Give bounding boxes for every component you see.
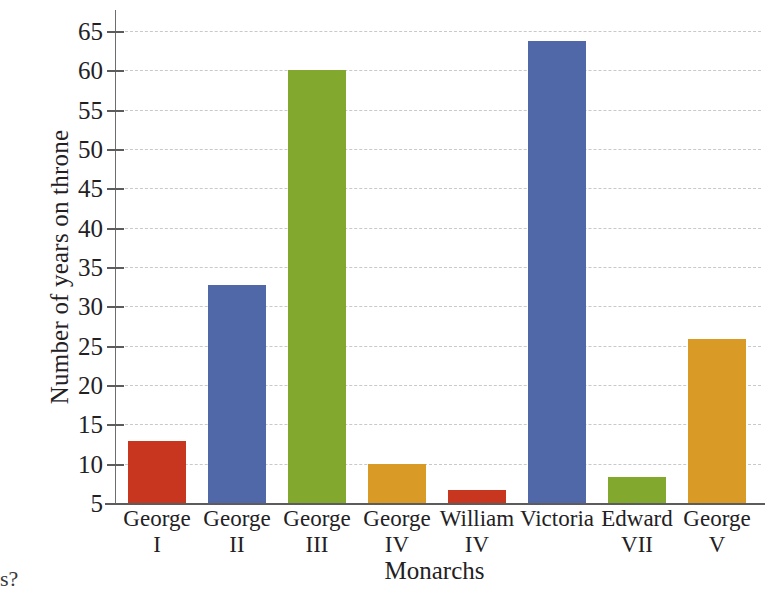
y-axis-tick-label: 50 <box>78 137 103 162</box>
y-axis-tick-label: 15 <box>78 412 103 437</box>
x-axis-tick-label: GeorgeV <box>669 506 765 558</box>
gridline <box>115 70 761 71</box>
bar <box>208 285 266 503</box>
y-axis-tick <box>107 346 124 348</box>
y-axis-tick <box>107 188 124 190</box>
y-axis-tick-label: 40 <box>78 215 103 240</box>
bar <box>688 339 746 503</box>
y-axis-tick <box>107 110 124 112</box>
y-axis-tick-label: 55 <box>78 97 103 122</box>
y-axis-tick <box>107 149 124 151</box>
gridline <box>115 110 761 111</box>
y-axis-tick-label: 45 <box>78 176 103 201</box>
gridline <box>115 188 761 189</box>
y-axis-tick <box>107 424 124 426</box>
page-artifact-text: s? <box>0 566 40 592</box>
y-axis-tick-label: 25 <box>78 333 103 358</box>
x-axis-title: Monarchs <box>0 557 761 585</box>
y-axis-tick <box>107 228 124 230</box>
y-axis-tick-label: 10 <box>78 451 103 476</box>
y-axis-tick <box>107 267 124 269</box>
bar <box>448 490 506 503</box>
bar <box>368 464 426 503</box>
bar <box>608 477 666 503</box>
y-axis-tick <box>107 385 124 387</box>
y-axis-tick <box>107 464 124 466</box>
y-axis-tick-label: 5 <box>91 491 104 516</box>
y-axis-tick <box>107 503 124 505</box>
y-axis-tick <box>107 306 124 308</box>
bar <box>528 41 586 503</box>
x-axis-tick-label-line1: George <box>669 506 765 532</box>
y-axis-tick <box>107 70 124 72</box>
gridline <box>115 267 761 268</box>
x-axis-line <box>105 503 765 505</box>
y-axis-tick-label: 20 <box>78 373 103 398</box>
y-axis-tick-label: 65 <box>78 19 103 44</box>
gridline <box>115 149 761 150</box>
y-axis-tick-label: 35 <box>78 255 103 280</box>
bar <box>128 441 186 503</box>
y-axis-line <box>115 10 116 503</box>
y-axis-tick-label: 30 <box>78 294 103 319</box>
y-axis-title: Number of years on throne <box>46 57 74 477</box>
x-axis-title-text: Monarchs <box>385 557 485 584</box>
y-axis-tick-label: 60 <box>78 58 103 83</box>
plot-area: 5101520253035404550556065 <box>105 0 761 503</box>
bar <box>288 70 346 503</box>
x-axis-tick-label-line2: IV <box>429 532 525 558</box>
y-axis-tick <box>107 31 124 33</box>
x-axis-tick-label-line2: V <box>669 532 765 558</box>
gridline <box>115 228 761 229</box>
gridline <box>115 31 761 32</box>
